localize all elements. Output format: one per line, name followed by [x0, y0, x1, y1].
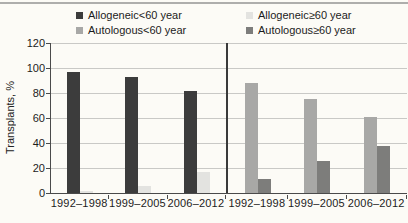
x-axis: 1992–19981999–20052006–20121992–19981999… — [50, 197, 406, 211]
x-axis-labels: 1992–19981999–20052006–2012 — [50, 197, 225, 209]
x-axis-labels: 1992–19981999–20052006–2012 — [227, 197, 406, 209]
x-category-label: 1992–1998 — [228, 197, 285, 209]
bar — [245, 83, 258, 193]
bar — [125, 77, 138, 193]
x-category-label: 2006–2012 — [348, 197, 405, 209]
bar — [197, 172, 210, 193]
x-tick-mark — [406, 195, 407, 199]
chart-figure: Allogeneic<60 yearAllogeneic≥60 yearAuto… — [0, 0, 408, 223]
bar — [258, 179, 271, 193]
bar — [304, 99, 317, 193]
bar — [138, 186, 151, 194]
y-tick-label: 120 — [16, 37, 45, 49]
legend-label: Allogeneic≥60 year — [258, 9, 351, 21]
bar-group — [304, 99, 330, 193]
legend-entry: Allogeneic<60 year — [76, 8, 246, 22]
bar — [80, 191, 93, 194]
y-tick-label: 0 — [16, 187, 45, 199]
bar — [184, 91, 197, 194]
bar-group — [364, 117, 390, 193]
bar-group — [184, 91, 210, 194]
legend-label: Autologous<60 year — [88, 24, 186, 36]
panel-autologous — [228, 43, 407, 193]
bar — [67, 72, 80, 193]
legend-marker — [246, 27, 253, 34]
y-axis-title: Transplants, % — [3, 43, 17, 193]
bar — [377, 146, 390, 194]
bar-group — [245, 83, 271, 193]
legend-marker — [76, 27, 83, 34]
bar — [317, 161, 330, 194]
x-category-label: 1999–2005 — [288, 197, 345, 209]
legend: Allogeneic<60 yearAllogeneic≥60 yearAuto… — [76, 8, 356, 37]
y-tick-label: 20 — [16, 162, 45, 174]
legend-marker — [246, 12, 253, 19]
bar-group — [67, 72, 93, 193]
legend-label: Autologous≥60 year — [258, 24, 356, 36]
legend-label: Allogeneic<60 year — [88, 9, 182, 21]
legend-marker — [76, 12, 83, 19]
top-divider-rule — [0, 2, 408, 4]
y-tick-label: 60 — [16, 112, 45, 124]
y-tick-label: 80 — [16, 87, 45, 99]
legend-entry: Autologous<60 year — [76, 23, 246, 37]
panel-allogeneic — [51, 43, 226, 193]
y-tick-label: 40 — [16, 137, 45, 149]
legend-entry: Allogeneic≥60 year — [246, 8, 356, 22]
bar-group — [125, 77, 151, 193]
plot-area — [50, 43, 407, 194]
legend-entry: Autologous≥60 year — [246, 23, 356, 37]
bar — [364, 117, 377, 193]
x-category-label: 1992–1998 — [51, 197, 108, 209]
x-category-label: 2006–2012 — [167, 197, 224, 209]
x-category-label: 1999–2005 — [109, 197, 166, 209]
y-tick-label: 100 — [16, 62, 45, 74]
